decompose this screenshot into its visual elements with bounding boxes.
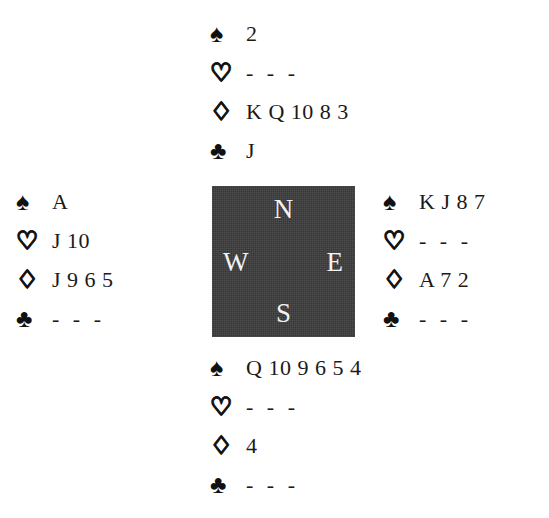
- west-diamond-row: ♢ J 9 6 5: [16, 260, 114, 299]
- heart-icon: ♡: [383, 228, 410, 253]
- east-diamond-row: ♢ A 7 2: [383, 260, 485, 299]
- heart-icon: ♡: [210, 394, 237, 419]
- south-diamond-cards: 4: [237, 433, 258, 459]
- west-diamond-cards: J 9 6 5: [43, 267, 114, 293]
- north-club-row: ♣ J: [210, 131, 349, 170]
- hand-east: ♠ K J 8 7 ♡ - - - ♢ A 7 2 ♣ - - -: [383, 182, 485, 338]
- north-diamond-row: ♢ K Q 10 8 3: [210, 92, 349, 131]
- compass-box: N W E S: [212, 186, 355, 337]
- club-icon: ♣: [16, 306, 43, 331]
- west-spade-cards: A: [43, 189, 68, 215]
- hand-west: ♠ A ♡ J 10 ♢ J 9 6 5 ♣ - - -: [16, 182, 114, 338]
- spade-icon: ♠: [210, 21, 237, 46]
- east-spade-row: ♠ K J 8 7: [383, 182, 485, 221]
- west-heart-row: ♡ J 10: [16, 221, 114, 260]
- east-club-row: ♣ - - -: [383, 299, 485, 338]
- club-icon: ♣: [383, 306, 410, 331]
- spade-icon: ♠: [383, 189, 410, 214]
- south-heart-row: ♡ - - -: [210, 387, 361, 426]
- north-spade-cards: 2: [237, 21, 258, 47]
- east-club-cards: - - -: [410, 306, 472, 332]
- west-spade-row: ♠ A: [16, 182, 114, 221]
- east-diamond-cards: A 7 2: [410, 267, 469, 293]
- south-diamond-row: ♢ 4: [210, 426, 361, 465]
- hand-north: ♠ 2 ♡ - - - ♢ K Q 10 8 3 ♣ J: [210, 14, 349, 170]
- spade-icon: ♠: [210, 355, 237, 380]
- heart-icon: ♡: [210, 60, 237, 85]
- south-spade-row: ♠ Q 10 9 6 5 4: [210, 348, 361, 387]
- heart-icon: ♡: [16, 228, 43, 253]
- bridge-deal-diagram: ♠ 2 ♡ - - - ♢ K Q 10 8 3 ♣ J ♠ A ♡ J 10 …: [0, 0, 549, 518]
- compass-label-west: W: [223, 248, 248, 275]
- club-icon: ♣: [210, 138, 237, 163]
- north-heart-row: ♡ - - -: [210, 53, 349, 92]
- diamond-icon: ♢: [383, 267, 410, 292]
- diamond-icon: ♢: [210, 433, 237, 458]
- south-heart-cards: - - -: [237, 394, 299, 420]
- east-heart-cards: - - -: [410, 228, 472, 254]
- compass-label-north: N: [212, 196, 355, 223]
- diamond-icon: ♢: [210, 99, 237, 124]
- west-club-row: ♣ - - -: [16, 299, 114, 338]
- north-spade-row: ♠ 2: [210, 14, 349, 53]
- north-diamond-cards: K Q 10 8 3: [237, 99, 349, 125]
- west-heart-cards: J 10: [43, 228, 90, 254]
- club-icon: ♣: [210, 472, 237, 497]
- south-spade-cards: Q 10 9 6 5 4: [237, 355, 361, 381]
- spade-icon: ♠: [16, 189, 43, 214]
- south-club-cards: - - -: [237, 472, 299, 498]
- compass-label-east: E: [327, 248, 344, 275]
- west-club-cards: - - -: [43, 306, 105, 332]
- east-heart-row: ♡ - - -: [383, 221, 485, 260]
- hand-south: ♠ Q 10 9 6 5 4 ♡ - - - ♢ 4 ♣ - - -: [210, 348, 361, 504]
- diamond-icon: ♢: [16, 267, 43, 292]
- south-club-row: ♣ - - -: [210, 465, 361, 504]
- north-heart-cards: - - -: [237, 60, 299, 86]
- east-spade-cards: K J 8 7: [410, 189, 485, 215]
- compass-label-south: S: [212, 300, 355, 327]
- north-club-cards: J: [237, 138, 255, 164]
